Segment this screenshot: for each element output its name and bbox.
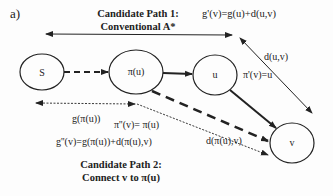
path2-title-line2: Connect v to π(u): [82, 172, 160, 184]
path2-edge-label: d(π(u),v): [206, 135, 242, 147]
node-v-label: v: [290, 137, 295, 148]
path2-title-line1: Candidate Path 2:: [80, 159, 162, 170]
diagram-svg: a) Candidate Path 1: Conventional A* g'(…: [0, 0, 333, 196]
path1-span-arrow: [46, 34, 232, 35]
path1-cost-formula: g'(v)=g(u)+d(u,v): [202, 8, 277, 20]
figure-label: a): [10, 6, 20, 21]
path1-title-line2: Conventional A*: [101, 21, 176, 32]
prefix-cost-label: g(π(u)): [72, 113, 100, 125]
path2-cost-formula: g''(v)=g(π(u))+d(π(u),v): [56, 136, 152, 148]
edge-parent-u-to-u: [163, 73, 192, 74]
path1-title-line1: Candidate Path 1:: [97, 8, 179, 19]
node-parent-u-label: π(u): [128, 66, 145, 78]
edge-u-to-v: [230, 90, 276, 128]
path-diagram: a) Candidate Path 1: Conventional A* g'(…: [0, 0, 333, 196]
node-s-label: S: [39, 67, 45, 78]
node-u-label: u: [213, 69, 218, 80]
edge-uv-label: d(u,v): [264, 51, 288, 63]
edge-parent-u-to-v: [152, 91, 268, 141]
path2-parent-assignment: π''(v)= π(u): [114, 119, 159, 131]
path1-parent-assignment: π'(v)=u: [243, 69, 272, 81]
prefix-cost-arrow: [36, 103, 135, 104]
